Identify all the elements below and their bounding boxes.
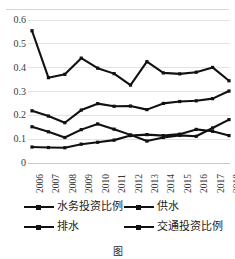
x-axis-tick: 2015 (184, 174, 194, 193)
x-axis-tick: 2009 (85, 174, 95, 193)
legend-label: 水务投资比例 (57, 201, 123, 213)
legend-line-marker-icon (24, 222, 54, 232)
figure-caption: 图 (0, 246, 235, 259)
y-axis-tick: 0.1 (0, 134, 26, 144)
x-axis-tick: 2017 (217, 174, 227, 193)
x-axis-tick: 2008 (69, 174, 79, 193)
line-chart (0, 0, 235, 200)
x-axis-tick: 2010 (102, 174, 112, 193)
legend-row-1: 水务投资比例 供水 (0, 201, 235, 219)
legend-item-drainage[interactable]: 排水 (24, 221, 79, 233)
y-axis-tick: 0.2 (0, 110, 26, 120)
legend-line-marker-icon (124, 222, 154, 232)
legend-label: 供水 (157, 201, 179, 213)
legend-line-marker-icon (124, 202, 154, 212)
x-axis-tick: 2013 (151, 174, 161, 193)
x-axis-tick: 2014 (167, 174, 177, 193)
figure-container: 00.10.20.30.40.50.6 20062007200820092010… (0, 0, 235, 259)
y-axis-tick: 0.5 (0, 39, 26, 49)
x-axis-tick: 2007 (52, 174, 62, 193)
y-axis-tick: 0.3 (0, 87, 26, 97)
x-axis-tick: 2006 (36, 174, 46, 193)
legend-item-transport-investment-ratio[interactable]: 交通投资比例 (124, 221, 223, 233)
legend-line-marker-icon (24, 202, 54, 212)
y-axis-tick: 0 (0, 158, 26, 168)
y-axis-tick: 0.6 (0, 15, 26, 25)
chart-legend: 水务投资比例 供水 排水 交通投资比例 (0, 201, 235, 245)
legend-label: 排水 (57, 221, 79, 233)
x-axis-tick: 2016 (200, 174, 210, 193)
legend-item-water-investment-ratio[interactable]: 水务投资比例 (24, 201, 123, 213)
legend-row-2: 排水 交通投资比例 (0, 221, 235, 239)
legend-label: 交通投资比例 (157, 221, 223, 233)
x-axis-tick: 2011 (118, 174, 128, 193)
legend-item-water-supply[interactable]: 供水 (124, 201, 179, 213)
x-axis-tick: 2012 (135, 174, 145, 193)
y-axis-tick: 0.4 (0, 63, 26, 73)
x-axis-tick: 2018 (233, 174, 235, 193)
plot-area: 00.10.20.30.40.50.6 20062007200820092010… (0, 0, 235, 200)
